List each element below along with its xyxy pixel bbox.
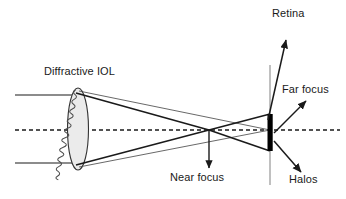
- lens-label: Diffractive IOL: [44, 66, 115, 77]
- thick-ray-group-near-focus: [76, 93, 270, 165]
- halos-label: Halos: [289, 174, 318, 185]
- thick-ray-lower-converging: [76, 130, 209, 165]
- thin-ray-upper-to-retina: [79, 91, 270, 130]
- far-focus-arrow: [274, 101, 306, 133]
- retina-arrow: [268, 40, 286, 120]
- diagram-canvas: [0, 0, 346, 199]
- halos-arrow: [274, 141, 301, 172]
- optical-diagram-figure: Diffractive IOL Retina Far focus Halos N…: [0, 0, 346, 199]
- retina-label: Retina: [272, 8, 304, 19]
- thick-ray-lower-diverging: [209, 130, 270, 151]
- thin-ray-lower-to-retina: [79, 130, 270, 167]
- lens-body: [68, 88, 89, 170]
- far-focus-label: Far focus: [282, 84, 329, 95]
- near-focus-label: Near focus: [170, 172, 224, 183]
- thick-ray-upper-diverging: [209, 114, 270, 130]
- thick-ray-upper-converging: [76, 93, 209, 130]
